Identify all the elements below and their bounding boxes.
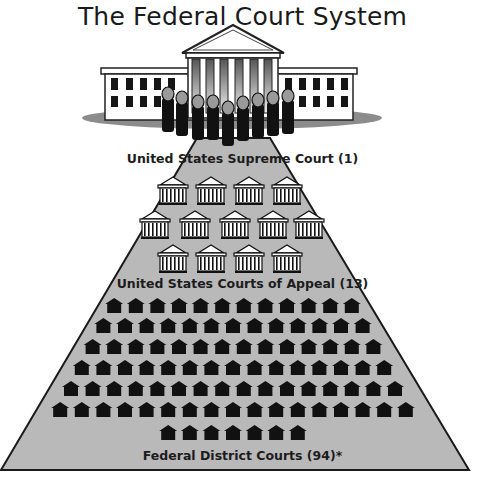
justice-icon: [162, 87, 174, 132]
district-courts-label: Federal District Courts (94)*: [0, 448, 485, 463]
supreme-court-label: United States Supreme Court (1): [0, 151, 485, 166]
justice-icon: [237, 96, 249, 141]
justice-icon: [207, 95, 219, 140]
justice-icon: [267, 91, 279, 136]
justice-icon: [176, 91, 188, 136]
justice-icon: [252, 93, 264, 138]
court-hierarchy-diagram: [0, 0, 485, 480]
justice-icon: [222, 101, 234, 146]
justice-icon: [192, 95, 204, 140]
justice-icon: [282, 89, 294, 134]
appeals-courts-label: United States Courts of Appeal (13): [0, 276, 485, 291]
